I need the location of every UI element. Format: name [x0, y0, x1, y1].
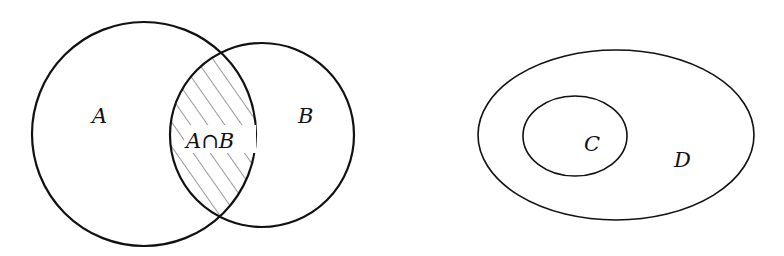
set-b-label: B [297, 104, 313, 128]
set-c-ellipse [523, 96, 627, 176]
set-d-ellipse [478, 50, 754, 220]
intersection-label: A∩B [184, 129, 234, 153]
intersection-diagram: A B A∩B [32, 22, 354, 246]
set-c-label: C [584, 132, 600, 156]
set-d-label: D [673, 148, 691, 172]
subset-diagram: C D [478, 50, 754, 220]
set-a-label: A [90, 104, 107, 128]
venn-diagrams: A B A∩B C D [0, 0, 784, 256]
